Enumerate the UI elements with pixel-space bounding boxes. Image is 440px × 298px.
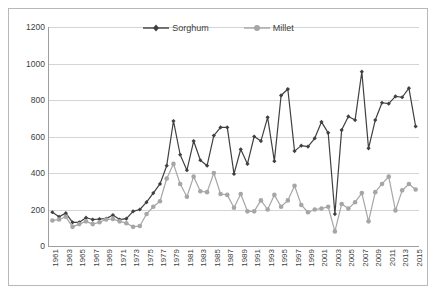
y-axis-tick-label: 600: [31, 132, 45, 141]
data-point-marker: [340, 128, 344, 132]
data-point-marker: [111, 217, 116, 222]
data-point-marker: [90, 222, 95, 227]
y-axis-tick-label: 400: [31, 169, 45, 178]
data-point-marker: [245, 209, 250, 214]
y-axis-tick-label: 1000: [26, 59, 45, 68]
data-point-marker: [151, 204, 156, 209]
x-axis-tick-label: 1963: [66, 249, 74, 267]
data-point-marker: [158, 199, 163, 204]
data-point-marker: [380, 101, 384, 105]
data-point-marker: [239, 147, 243, 151]
data-point-marker: [272, 193, 277, 198]
x-axis-tick-label: 2003: [335, 249, 343, 267]
data-point-marker: [185, 194, 190, 199]
data-point-marker: [286, 198, 291, 203]
data-point-marker: [413, 187, 418, 192]
data-point-marker: [50, 218, 55, 223]
data-point-marker: [279, 204, 284, 209]
y-axis-tick-label: 1200: [26, 23, 45, 32]
data-point-marker: [218, 192, 223, 197]
data-point-marker: [124, 221, 129, 226]
x-axis-tick-label: 1993: [268, 249, 276, 267]
data-point-marker: [326, 204, 331, 209]
data-point-marker: [319, 206, 324, 211]
x-axis-tick-label: 1967: [93, 249, 101, 267]
data-point-marker: [198, 189, 203, 194]
y-axis-tick-label: 200: [31, 205, 45, 214]
data-point-marker: [104, 217, 109, 222]
x-axis-tick-label: 1961: [52, 249, 60, 267]
data-point-marker: [245, 162, 249, 166]
data-point-marker: [306, 210, 311, 215]
data-point-marker: [165, 164, 169, 168]
x-axis-tick-label: 1977: [160, 249, 168, 267]
x-axis-tick-label: 2009: [375, 249, 383, 267]
x-axis-tick-label: 1995: [281, 249, 289, 267]
data-point-marker: [138, 224, 143, 229]
x-axis-tick-label: 1969: [106, 249, 114, 267]
data-point-marker: [225, 125, 229, 129]
data-point-marker: [360, 70, 364, 74]
data-point-marker: [171, 119, 175, 123]
data-point-marker: [266, 115, 270, 119]
data-point-marker: [70, 225, 75, 230]
y-axis-tick-label: 800: [31, 96, 45, 105]
data-point-marker: [91, 217, 95, 221]
data-point-marker: [232, 172, 236, 176]
data-point-marker: [84, 219, 89, 224]
data-point-marker: [353, 200, 358, 205]
data-point-marker: [393, 208, 398, 213]
data-point-marker: [238, 192, 243, 197]
data-point-marker: [185, 168, 189, 172]
data-point-marker: [252, 209, 257, 214]
data-point-marker: [333, 212, 337, 216]
data-point-marker: [312, 207, 317, 212]
data-point-marker: [360, 191, 365, 196]
data-point-marker: [97, 220, 102, 225]
x-axis-tick-label: 1987: [227, 249, 235, 267]
data-point-marker: [386, 174, 391, 179]
x-axis-tick-label: 1999: [308, 249, 316, 267]
data-point-marker: [144, 212, 149, 217]
data-point-marker: [400, 188, 405, 193]
data-point-marker: [366, 219, 371, 224]
data-point-marker: [205, 190, 210, 195]
chart-figure: 020040060080010001200 196119631965196719…: [8, 8, 428, 286]
x-axis-tick-label: 1971: [120, 249, 128, 267]
data-point-marker: [414, 124, 418, 128]
x-axis-tick-label: 1973: [133, 249, 141, 267]
data-point-marker: [272, 159, 276, 163]
data-point-marker: [212, 171, 217, 176]
data-point-marker: [366, 146, 370, 150]
x-axis-tick-label: 1989: [241, 249, 249, 267]
data-point-marker: [265, 207, 270, 212]
data-point-marker: [117, 219, 122, 224]
data-point-marker: [131, 225, 136, 230]
x-axis-tick-label: 2007: [362, 249, 370, 267]
data-point-marker: [192, 139, 196, 143]
data-point-marker: [339, 202, 344, 207]
data-point-marker: [57, 217, 62, 222]
data-point-marker: [407, 182, 412, 187]
data-point-marker: [299, 203, 304, 208]
x-axis-tick-label: 2015: [416, 249, 424, 267]
data-point-marker: [333, 229, 338, 234]
data-point-marker: [232, 205, 237, 210]
data-point-marker: [171, 162, 176, 167]
x-axis-tick-label: 1997: [295, 249, 303, 267]
data-point-marker: [373, 118, 377, 122]
x-axis-tick-label: 1975: [147, 249, 155, 267]
data-point-marker: [373, 190, 378, 195]
x-axis-tick-label: 1983: [200, 249, 208, 267]
series-lines: [49, 27, 419, 246]
series-line: [52, 72, 415, 223]
data-point-marker: [178, 182, 183, 187]
data-point-marker: [292, 183, 297, 188]
y-axis-tick-label: 0: [40, 242, 45, 251]
x-axis-tick-label: 2011: [389, 249, 397, 266]
data-point-marker: [164, 176, 169, 181]
x-axis-tick-label: 1965: [79, 249, 87, 267]
plot-area: 020040060080010001200 196119631965196719…: [48, 27, 419, 247]
x-axis-tick-label: 2005: [348, 249, 356, 267]
x-axis-tick-label: 1979: [173, 249, 181, 267]
